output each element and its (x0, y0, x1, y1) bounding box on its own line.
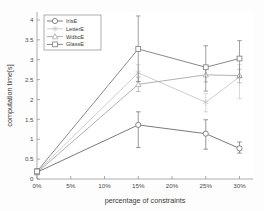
x-tick-label: 0% (33, 182, 42, 189)
y-tick-label: 4 (30, 16, 34, 23)
data-point-circle-marker (52, 18, 57, 23)
x-axis-title: percentage of constraints (105, 196, 186, 205)
x-tick-label: 5% (66, 182, 75, 189)
legend-label: GlassE (66, 41, 84, 47)
legend-entry-glasse[interactable]: GlassE (47, 41, 84, 47)
y-tick-label: 0.5 (25, 155, 34, 162)
data-point-square-marker (237, 56, 242, 61)
y-axis-title: computation time[s] (5, 64, 14, 126)
chart-figure: 0%5%10%15%20%25%30%00.511.522.533.54 per… (0, 0, 264, 211)
data-point-circle-marker (203, 131, 208, 136)
y-tick-label: 1 (30, 135, 34, 142)
y-tick-label: 0 (30, 175, 34, 182)
data-point-square-marker (53, 42, 58, 47)
y-tick-label: 3.5 (25, 36, 34, 43)
y-tick-label: 2.5 (25, 76, 34, 83)
data-point-circle-marker (136, 122, 141, 127)
data-point-square-marker (35, 169, 40, 174)
line-chart-canvas: 0%5%10%15%20%25%30%00.511.522.533.54 per… (0, 0, 264, 211)
x-tick-label: 10% (98, 182, 111, 189)
x-tick-label: 25% (200, 182, 213, 189)
x-tick-label: 15% (132, 182, 145, 189)
y-tick-label: 3 (30, 56, 34, 63)
legend: IrisELetterEWdbcEGlassE (44, 15, 101, 50)
legend-label: LetterE (66, 26, 84, 32)
y-tick-label: 1.5 (25, 116, 34, 123)
legend-label: IrisE (66, 18, 77, 24)
x-tick-label: 30% (233, 182, 246, 189)
data-point-circle-marker (237, 146, 242, 151)
y-tick-label: 2 (30, 96, 34, 103)
legend-label: WdbcE (66, 34, 84, 40)
data-point-square-marker (136, 47, 141, 52)
x-tick-label: 20% (166, 182, 179, 189)
data-point-square-marker (203, 65, 208, 70)
